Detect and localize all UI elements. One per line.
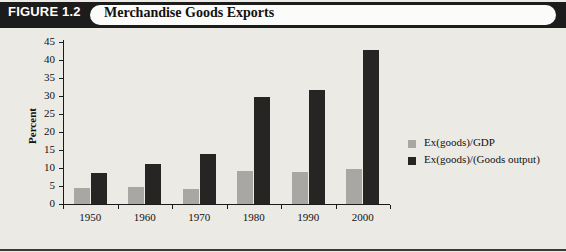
y-tick-label: 15 (31, 143, 55, 155)
x-tick-mark (118, 205, 119, 209)
bar-2000-series-1 (346, 169, 362, 204)
legend-swatch-icon-goods (408, 157, 416, 165)
x-tick-label: 1960 (117, 211, 173, 223)
bar-1970-series-2 (200, 154, 216, 204)
x-tick-mark (390, 205, 391, 209)
x-tick-label: 1950 (62, 211, 118, 223)
y-tick-label: 10 (31, 161, 55, 173)
bar-2000-series-2 (363, 50, 379, 204)
y-tick-label: 5 (31, 179, 55, 191)
x-tick-mark (63, 205, 64, 209)
x-tick-mark (172, 205, 173, 209)
y-tick-mark (59, 42, 63, 43)
bar-1980-series-1 (237, 171, 253, 204)
y-tick-mark (59, 132, 63, 133)
figure-header-band (0, 2, 566, 28)
bar-1950-series-1 (74, 188, 90, 204)
legend-swatch-icon-gdp (408, 140, 416, 148)
y-tick-label: 25 (31, 107, 55, 119)
figure-container: FIGURE 1.2 Merchandise Goods Exports Per… (0, 0, 566, 252)
y-tick-label: 0 (31, 197, 55, 209)
bar-1960-series-1 (128, 187, 144, 204)
x-tick-label: 2000 (335, 211, 391, 223)
y-tick-mark (59, 96, 63, 97)
bar-1980-series-2 (254, 97, 270, 204)
x-tick-mark (227, 205, 228, 209)
bar-1950-series-2 (91, 173, 107, 204)
chart-plot-area: Percent 051015202530354045 1950196019701… (0, 28, 566, 250)
legend-label-gdp: Ex(goods)/GDP (424, 136, 495, 148)
y-tick-label: 20 (31, 125, 55, 137)
y-tick-mark (59, 168, 63, 169)
y-tick-label: 45 (31, 35, 55, 47)
bar-1990-series-1 (292, 172, 308, 204)
y-tick-label: 35 (31, 71, 55, 83)
legend-label-goods: Ex(goods)/(Goods output) (424, 153, 540, 165)
y-tick-label: 30 (31, 89, 55, 101)
bar-1990-series-2 (309, 90, 325, 204)
bar-1970-series-1 (183, 189, 199, 204)
y-tick-mark (59, 186, 63, 187)
figure-number-label: FIGURE 1.2 (8, 4, 81, 19)
y-tick-label: 40 (31, 53, 55, 65)
y-tick-mark (59, 78, 63, 79)
y-tick-mark (59, 60, 63, 61)
x-tick-label: 1980 (226, 211, 282, 223)
x-tick-mark (281, 205, 282, 209)
figure-bottom-rule (0, 249, 566, 251)
bar-1960-series-2 (145, 164, 161, 204)
y-tick-mark (59, 114, 63, 115)
x-tick-label: 1970 (171, 211, 227, 223)
x-tick-label: 1990 (280, 211, 336, 223)
y-axis-line (63, 40, 64, 205)
figure-title: Merchandise Goods Exports (104, 5, 274, 21)
y-tick-mark (59, 150, 63, 151)
x-tick-mark (336, 205, 337, 209)
